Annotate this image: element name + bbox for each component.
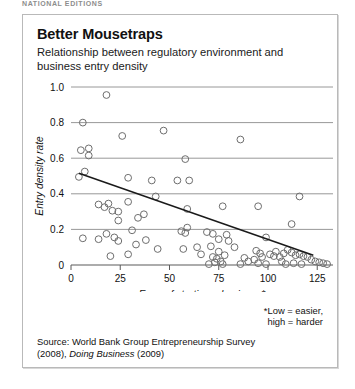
chart-subtitle: Relationship between regulatory environm…: [37, 46, 327, 73]
page-header: NATIONAL EDITIONS: [22, 0, 103, 7]
footnote: *Low = easier, high = harder: [264, 305, 323, 328]
x-tick-label: 100: [260, 273, 277, 284]
data-point: [115, 217, 122, 224]
source-note: Source: World Bank Group Entrepreneurshi…: [37, 336, 327, 359]
chart-title: Better Mousetraps: [37, 26, 163, 42]
data-point: [288, 221, 295, 228]
data-point: [225, 238, 232, 245]
data-point: [77, 147, 84, 154]
y-tick-label: 0: [58, 260, 64, 271]
y-tick-label: 1.0: [50, 82, 64, 93]
data-point: [209, 230, 216, 237]
y-tick-label: 0.8: [50, 117, 64, 128]
trend-line: [79, 173, 313, 255]
data-point: [178, 228, 185, 235]
data-point: [180, 246, 187, 253]
data-point-group: [75, 92, 330, 268]
data-point: [107, 253, 114, 260]
data-point: [263, 261, 270, 268]
footnote-line-2: high = harder: [264, 316, 323, 327]
data-point: [119, 133, 126, 140]
data-point: [133, 241, 140, 248]
data-point: [79, 235, 86, 242]
source-year-suffix: (2009): [134, 348, 164, 359]
y-tick-label: 0.6: [50, 153, 64, 164]
data-point: [154, 246, 161, 253]
x-tick-label: 0: [68, 273, 74, 284]
data-point: [148, 177, 155, 184]
data-point: [205, 261, 212, 268]
y-tick-label: 0.2: [50, 224, 64, 235]
data-point: [125, 174, 132, 181]
figure-panel: Better Mousetraps Relationship between r…: [22, 14, 338, 368]
data-point: [219, 203, 226, 210]
x-axis-tick-labels: 0255075100125: [68, 273, 326, 284]
data-point: [237, 261, 244, 268]
x-tick-label: 75: [213, 273, 225, 284]
data-point: [215, 236, 222, 243]
data-point: [125, 251, 132, 258]
data-point: [85, 145, 92, 152]
data-point: [95, 236, 102, 243]
data-point: [103, 92, 110, 99]
source-publication: Doing Business: [69, 348, 134, 359]
data-point: [198, 251, 205, 258]
y-axis-tick-labels: 00.20.40.60.81.0: [50, 82, 64, 271]
data-point: [237, 136, 244, 143]
x-axis-ticks: [71, 265, 317, 270]
data-point: [174, 177, 181, 184]
plot-svg: 00.20.40.60.81.0 0255075100125 Entry den…: [23, 77, 339, 292]
x-tick-label: 125: [309, 273, 326, 284]
x-tick-label: 25: [115, 273, 127, 284]
data-point: [125, 198, 132, 205]
data-point: [231, 244, 238, 251]
x-tick-label: 50: [164, 273, 176, 284]
source-line-1: Source: World Bank Group Entrepreneurshi…: [37, 336, 255, 347]
data-point: [182, 156, 189, 163]
data-point: [298, 261, 305, 268]
footnote-line-1: *Low = easier,: [264, 305, 323, 316]
data-point: [221, 252, 228, 259]
data-point: [140, 211, 147, 218]
source-year-prefix: (2008),: [37, 348, 69, 359]
y-tick-label: 0.4: [50, 188, 64, 199]
y-axis-title: Entry density rate: [34, 136, 45, 216]
data-point: [207, 243, 214, 250]
data-point: [103, 230, 110, 237]
x-axis-title: Ease of starting a business*: [139, 289, 266, 292]
data-point: [160, 127, 167, 134]
scatter-plot: 00.20.40.60.81.0 0255075100125 Entry den…: [23, 77, 339, 292]
data-point: [129, 227, 136, 234]
data-point: [142, 237, 149, 244]
data-point: [324, 261, 331, 268]
data-point: [255, 203, 262, 210]
data-point: [186, 177, 193, 184]
gridlines: [71, 87, 333, 265]
data-point: [290, 260, 297, 267]
data-point: [194, 244, 201, 251]
